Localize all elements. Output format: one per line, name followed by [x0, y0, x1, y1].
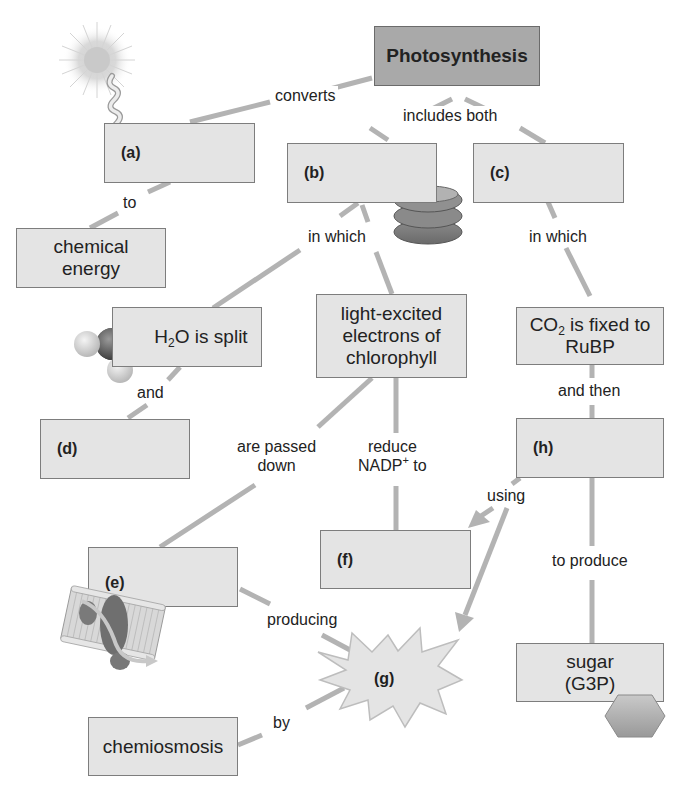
- blank-node-d[interactable]: (d): [40, 419, 190, 479]
- node-f-label: (f): [337, 549, 353, 571]
- node-b-label: (b): [304, 162, 324, 184]
- reduce-line1: reduce: [358, 437, 427, 456]
- node-d-label: (d): [57, 438, 77, 460]
- node-h-label: (h): [533, 437, 553, 459]
- link-reduce-nadp: reduce NADP+ to: [355, 437, 430, 475]
- node-a-label: (a): [121, 142, 141, 164]
- link-using: using: [484, 486, 528, 505]
- sun-icon: [59, 22, 135, 98]
- h2o-split-node: H2O is split: [112, 307, 262, 367]
- light-excited-line1: light-excited: [341, 303, 442, 325]
- link-are-passed-down: are passed down: [234, 437, 319, 475]
- link-to: to: [120, 193, 139, 212]
- co2-fixed-node: CO2 is fixed to RuBP: [516, 307, 664, 365]
- link-in-which-right: in which: [526, 227, 590, 246]
- node-g-label[interactable]: (g): [374, 670, 394, 688]
- blank-node-f[interactable]: (f): [320, 530, 471, 589]
- chemiosmosis-node: chemiosmosis: [88, 717, 238, 776]
- co2-fixed-line2: RuBP: [565, 336, 615, 358]
- sugar-line2: (G3P): [565, 673, 616, 695]
- blank-node-a[interactable]: (a): [104, 123, 255, 183]
- link-includes-both: includes both: [400, 106, 500, 125]
- co2-fixed-line1: CO2 is fixed to: [530, 314, 651, 336]
- light-excited-line3: chlorophyll: [346, 347, 437, 369]
- chemical-energy-node: chemical energy: [16, 228, 166, 288]
- chemiosmosis-label: chemiosmosis: [103, 736, 223, 758]
- photosynthesis-concept-map: Photosynthesis (a) (b) (c) chemical ener…: [0, 0, 683, 785]
- link-by: by: [270, 713, 293, 732]
- link-converts: converts: [272, 86, 338, 105]
- node-c-label: (c): [490, 162, 510, 184]
- link-in-which-left: in which: [305, 227, 369, 246]
- photosynthesis-node: Photosynthesis: [374, 26, 540, 86]
- blank-node-b[interactable]: (b): [287, 143, 437, 203]
- link-and: and: [134, 383, 167, 402]
- reduce-line2: NADP+ to: [358, 456, 427, 475]
- are-passed-line2: down: [237, 456, 316, 475]
- link-to-produce: to produce: [549, 551, 631, 570]
- blank-node-c[interactable]: (c): [473, 143, 624, 203]
- photosynthesis-label: Photosynthesis: [386, 45, 527, 67]
- chemical-energy-line1: chemical: [54, 236, 129, 258]
- link-producing: producing: [264, 610, 340, 629]
- hexagon-sugar-icon: [604, 694, 666, 738]
- are-passed-line1: are passed: [237, 437, 316, 456]
- h2o-split-label: H2O is split: [154, 326, 247, 348]
- light-excited-line2: electrons of: [342, 325, 440, 347]
- sugar-line1: sugar: [566, 651, 614, 673]
- link-and-then: and then: [555, 381, 623, 400]
- blank-node-h[interactable]: (h): [516, 418, 664, 478]
- light-excited-electrons-node: light-excited electrons of chlorophyll: [316, 294, 467, 378]
- chemical-energy-line2: energy: [62, 258, 120, 280]
- membrane-protein-icon: [58, 583, 170, 673]
